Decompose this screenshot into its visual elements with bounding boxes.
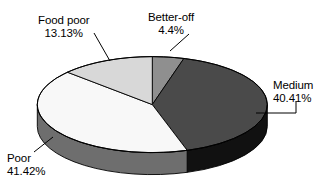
slice-label-better-off-percent: 4.4%: [148, 24, 194, 37]
slice-label-food-poor-name: Food poor: [38, 14, 90, 27]
slice-label-medium-percent: 40.41%: [273, 92, 313, 105]
slice-label-poor-percent: 41.42%: [7, 165, 45, 178]
slice-label-poor-name: Poor: [7, 152, 45, 165]
slice-label-food-poor-percent: 13.13%: [38, 27, 90, 40]
pie-chart: Food poor 13.13% Better-off 4.4% Medium …: [0, 0, 323, 189]
slice-label-medium-name: Medium: [273, 79, 313, 92]
leader-line-food-poor: [94, 33, 110, 61]
slice-label-poor: Poor 41.42%: [7, 152, 45, 178]
slice-label-medium: Medium 40.41%: [273, 79, 313, 105]
slice-label-better-off: Better-off 4.4%: [148, 11, 194, 37]
slice-label-better-off-name: Better-off: [148, 11, 194, 24]
slice-label-food-poor: Food poor 13.13%: [38, 14, 90, 40]
